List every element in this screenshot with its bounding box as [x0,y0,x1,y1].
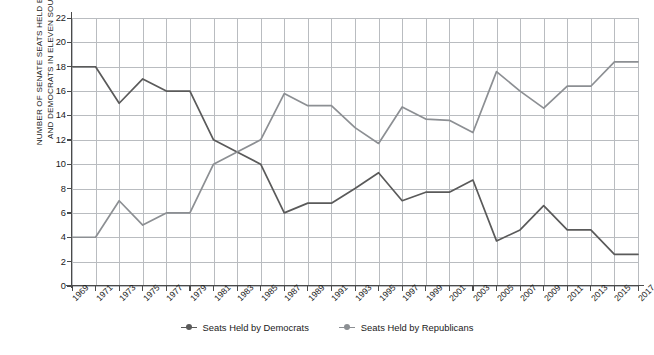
legend-label-democrats: Seats Held by Democrats [203,322,309,333]
x-axis-tick-mark [425,286,426,291]
y-axis-tick-label: 20 [56,37,66,47]
x-axis-tick-mark [567,286,568,291]
y-axis-tick-label: 2 [61,257,66,267]
x-axis-tick-mark [284,286,285,291]
x-axis-tick-mark [378,286,379,291]
x-axis-tick-mark [520,286,521,291]
x-axis-tick-mark [638,286,639,291]
y-axis-tick-label: 18 [56,62,66,72]
y-axis-tick-mark [67,115,72,116]
x-axis-tick-mark [119,286,120,291]
x-axis-tick-mark [496,286,497,291]
x-axis-tick-mark [355,286,356,291]
y-axis-tick-mark [67,188,72,189]
y-axis-tick-mark [67,237,72,238]
legend: Seats Held by Democrats Seats Held by Re… [0,322,654,333]
y-axis-tick-mark [67,164,72,165]
senate-seats-line-chart: NUMBER OF SENATE SEATS HELD BY REPUBLICA… [0,0,654,355]
x-axis-tick-mark [72,286,73,291]
legend-label-republicans: Seats Held by Republicans [361,322,474,333]
y-axis-tick-mark [67,18,72,19]
legend-item-democrats[interactable]: Seats Held by Democrats [181,322,309,333]
x-axis-tick-mark [307,286,308,291]
y-axis-tick-label: 8 [61,184,66,194]
y-axis-tick-mark [67,139,72,140]
x-axis-tick-mark [213,286,214,291]
series-layer [72,18,638,286]
y-axis-tick-mark [67,66,72,67]
y-axis-tick-label: 14 [56,110,66,120]
gridline-vertical [638,18,639,286]
y-axis-tick-label: 12 [56,135,66,145]
x-axis-tick-mark [614,286,615,291]
plot-area: 0246810121416182022196919711973197519771… [72,18,638,286]
y-axis-tick-mark [67,42,72,43]
x-axis-tick-mark [402,286,403,291]
x-axis-tick-mark [142,286,143,291]
y-axis-tick-label: 16 [56,86,66,96]
x-axis-tick-mark [472,286,473,291]
y-axis-tick-label: 4 [61,232,66,242]
y-axis-tick-label: 0 [61,281,66,291]
x-axis-tick-mark [331,286,332,291]
y-axis-tick-mark [67,212,72,213]
y-axis-tick-label: 22 [56,13,66,23]
x-axis-tick-mark [237,286,238,291]
y-axis-tick-label: 6 [61,208,66,218]
legend-item-republicans[interactable]: Seats Held by Republicans [339,322,474,333]
y-axis-tick-mark [67,261,72,262]
x-axis-tick-mark [166,286,167,291]
series-line-republicans [72,62,638,237]
y-axis-tick-mark [67,91,72,92]
y-axis-tick-label: 10 [56,159,66,169]
legend-marker-democrats [181,323,197,332]
x-axis-tick-mark [449,286,450,291]
x-axis-tick-mark [189,286,190,291]
x-axis-tick-mark [260,286,261,291]
x-axis-tick-mark [543,286,544,291]
x-axis-tick-mark [95,286,96,291]
x-axis-tick-mark [590,286,591,291]
series-line-democrats [72,67,638,255]
legend-marker-republicans [339,323,355,332]
